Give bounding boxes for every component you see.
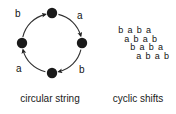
node-bottom bbox=[47, 68, 57, 78]
figure-circular-string-and-cyclic-shifts: b a b a circular string b a b a a b a b … bbox=[0, 0, 176, 114]
cyclic-shifts-caption: cyclic shifts bbox=[100, 93, 176, 105]
node-top bbox=[47, 8, 57, 18]
cyclic-shift-row: a b a b bbox=[100, 52, 170, 61]
arc-bottom-to-left bbox=[23, 50, 45, 72]
edge-label-left-to-top: b bbox=[15, 9, 21, 19]
edge-label-top-to-right: a bbox=[77, 11, 83, 21]
circular-string-caption: circular string bbox=[0, 93, 100, 105]
cyclic-shifts-list: b a b a a b a b b a b a a b a b bbox=[100, 26, 170, 60]
node-left bbox=[17, 38, 27, 48]
cyclic-shifts-panel: b a b a a b a b b a b a a b a b cyclic s… bbox=[100, 0, 176, 114]
circular-string-panel: b a b a circular string bbox=[0, 0, 100, 114]
arc-left-to-top bbox=[23, 14, 46, 37]
node-right bbox=[77, 38, 87, 48]
edge-label-bottom-to-left: a bbox=[16, 64, 22, 74]
arc-right-to-bottom bbox=[59, 50, 81, 72]
edge-label-right-to-bottom: b bbox=[79, 65, 85, 75]
